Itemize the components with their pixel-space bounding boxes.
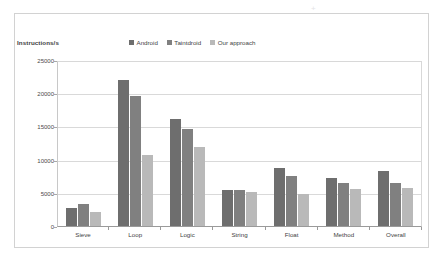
y-axis-title: Instructions/s [17, 39, 59, 46]
legend-label: Taintdroid [174, 39, 201, 46]
bar[interactable] [182, 129, 193, 227]
x-tick-label-method: Method [318, 231, 370, 238]
legend-item-0[interactable]: Android [129, 39, 158, 46]
bar[interactable] [350, 189, 361, 227]
chart-legend: AndroidTaintdroidOur approach [129, 39, 256, 46]
x-tick-label-overall: Overall [370, 231, 422, 238]
legend-swatch-icon [129, 40, 134, 45]
bar[interactable] [142, 155, 153, 227]
bar[interactable] [118, 80, 129, 227]
y-tick-mark [54, 227, 57, 228]
bar[interactable] [326, 178, 337, 227]
bar[interactable] [378, 171, 389, 227]
x-tick-mark [369, 227, 370, 230]
bar[interactable] [390, 183, 401, 227]
x-tick-mark [317, 227, 318, 230]
bar[interactable] [222, 190, 233, 227]
x-tick-label-string: String [213, 231, 265, 238]
y-tick-label: 15000 [37, 124, 54, 130]
x-tick-label-logic: Logic [161, 231, 213, 238]
x-tick-label-loop: Loop [109, 231, 161, 238]
scan-mark-plus-icon: + [311, 5, 316, 13]
legend-item-1[interactable]: Taintdroid [167, 39, 201, 46]
bar[interactable] [402, 188, 413, 227]
bar-group-float [266, 61, 318, 227]
bar[interactable] [234, 190, 245, 227]
x-tick-label-sieve: Sieve [57, 231, 109, 238]
y-tick-label: 5000 [41, 191, 54, 197]
x-tick-mark [265, 227, 266, 230]
x-tick-mark [160, 227, 161, 230]
x-axis-tick-labels: SieveLoopLogicStringFloatMethodOverall [57, 231, 422, 238]
legend-label: Android [137, 39, 158, 46]
bar[interactable] [130, 96, 141, 227]
bar[interactable] [274, 168, 285, 227]
bar[interactable] [338, 183, 349, 227]
bar[interactable] [90, 212, 101, 227]
bar-group-overall [370, 61, 422, 227]
legend-swatch-icon [210, 40, 215, 45]
chart-figure: + ∨ Instructions/s AndroidTaintdroidOur … [0, 0, 444, 258]
bar[interactable] [298, 194, 309, 227]
bar[interactable] [66, 208, 77, 227]
bar[interactable] [78, 204, 89, 227]
x-tick-mark [108, 227, 109, 230]
bar-group-method [318, 61, 370, 227]
bar[interactable] [286, 176, 297, 227]
bar-groups [57, 61, 422, 227]
legend-label: Our approach [218, 39, 256, 46]
legend-swatch-icon [167, 40, 172, 45]
bar[interactable] [194, 147, 205, 227]
bar-group-loop [109, 61, 161, 227]
x-tick-mark [421, 227, 422, 230]
bar[interactable] [170, 119, 181, 227]
y-axis-tick-labels: 2500020000150001000050000 [20, 61, 54, 227]
bar-group-logic [161, 61, 213, 227]
plot-area [57, 61, 422, 227]
scan-artifact-text [4, 1, 164, 8]
y-tick-label: 25000 [37, 58, 54, 64]
x-tick-mark [212, 227, 213, 230]
y-tick-label: 20000 [37, 91, 54, 97]
bar-group-sieve [57, 61, 109, 227]
y-tick-label: 10000 [37, 158, 54, 164]
legend-item-2[interactable]: Our approach [210, 39, 255, 46]
bar[interactable] [246, 192, 257, 227]
x-tick-label-float: Float [266, 231, 318, 238]
bar-group-string [213, 61, 265, 227]
